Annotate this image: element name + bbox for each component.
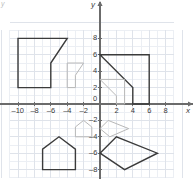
x-tick-label: 4 bbox=[131, 107, 135, 115]
x-tick-label: –4 bbox=[63, 107, 71, 115]
x-tick-label: –6 bbox=[47, 107, 55, 115]
y-tick-label: –6 bbox=[89, 149, 97, 157]
x-axis-label: x bbox=[186, 107, 190, 115]
y-axis-arrow-icon bbox=[97, 1, 102, 6]
y-tick-label: –8 bbox=[89, 166, 97, 174]
y-tick-label: –4 bbox=[89, 133, 97, 141]
plot-canvas bbox=[0, 0, 195, 179]
x-tick-label: –10 bbox=[12, 107, 25, 115]
y-tick-label: –2 bbox=[89, 116, 97, 124]
y-tick-label: 4 bbox=[93, 67, 97, 75]
x-tick-label: 2 bbox=[114, 107, 118, 115]
y-tick-label: 6 bbox=[93, 51, 97, 59]
quadrant-1-notched-rectangle-image bbox=[100, 79, 125, 104]
y-tick-label: 2 bbox=[93, 84, 97, 92]
y-axis-label: y bbox=[91, 1, 95, 9]
coordinate-plane-figure: y –10–8–6–4–2024688642–2–4–6–8 x y bbox=[0, 0, 195, 179]
x-tick-label: 6 bbox=[147, 107, 151, 115]
x-tick-label: –8 bbox=[30, 107, 38, 115]
x-tick-label: 8 bbox=[164, 107, 168, 115]
y-tick-label: 8 bbox=[93, 34, 97, 42]
x-tick-label: –2 bbox=[80, 107, 88, 115]
x-tick-label: 0 bbox=[93, 95, 97, 103]
